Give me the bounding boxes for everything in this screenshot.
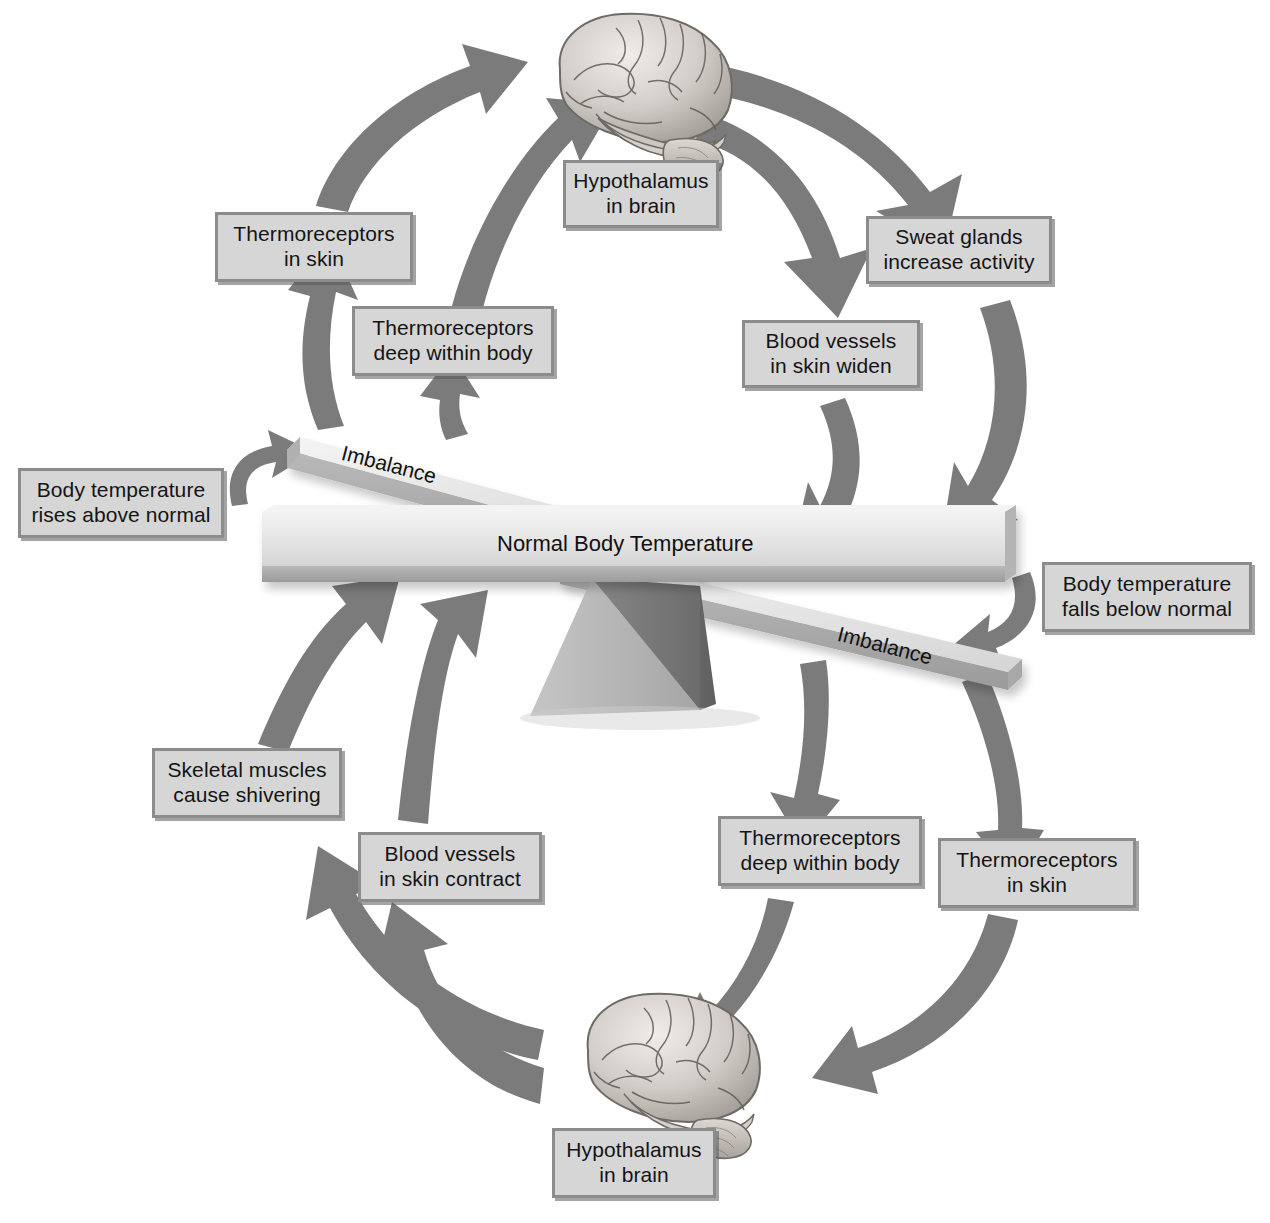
node-sweat-glands[interactable]: Sweat glands increase activity <box>866 216 1052 284</box>
node-blood-vessels-contract-line2: in skin contract <box>379 867 521 892</box>
thermoregulation-diagram: Normal Body Temperature Imbalance Imbala… <box>0 0 1270 1223</box>
node-blood-vessels-widen-line2: in skin widen <box>766 354 897 379</box>
node-skeletal-muscles-line1: Skeletal muscles <box>167 758 326 783</box>
node-skeletal-muscles-line2: cause shivering <box>167 783 326 808</box>
node-body-temperature-falls-line1: Body temperature <box>1062 572 1232 597</box>
node-thermoreceptors-deep-bottom[interactable]: Thermoreceptors deep within body <box>718 816 922 886</box>
arrow-blood-vessels-contract-to-beam <box>398 590 488 824</box>
arrow-thermoreceptors-skin-to-brain <box>316 44 528 212</box>
node-thermoreceptors-deep-bottom-line2: deep within body <box>739 851 900 876</box>
node-thermoreceptors-skin-top-line2: in skin <box>233 247 394 272</box>
node-sweat-glands-line1: Sweat glands <box>883 225 1034 250</box>
node-hypothalamus-top-line2: in brain <box>573 194 708 219</box>
node-body-temperature-rises-line2: rises above normal <box>31 503 210 528</box>
node-thermoreceptors-deep-top[interactable]: Thermoreceptors deep within body <box>352 306 554 376</box>
node-hypothalamus-bottom-line1: Hypothalamus <box>566 1138 701 1163</box>
node-sweat-glands-line2: increase activity <box>883 250 1034 275</box>
node-hypothalamus-bottom[interactable]: Hypothalamus in brain <box>552 1128 716 1198</box>
node-body-temperature-falls-line2: falls below normal <box>1062 597 1232 622</box>
node-hypothalamus-top-line1: Hypothalamus <box>573 169 708 194</box>
node-thermoreceptors-deep-top-line1: Thermoreceptors <box>372 316 533 341</box>
node-hypothalamus-top[interactable]: Hypothalamus in brain <box>563 160 719 228</box>
node-skeletal-muscles[interactable]: Skeletal muscles cause shivering <box>152 748 342 818</box>
node-hypothalamus-bottom-line2: in brain <box>566 1163 701 1188</box>
node-blood-vessels-widen-line1: Blood vessels <box>766 329 897 354</box>
node-blood-vessels-contract-line1: Blood vessels <box>379 842 521 867</box>
node-thermoreceptors-skin-bottom-line2: in skin <box>956 873 1117 898</box>
node-thermoreceptors-skin-top[interactable]: Thermoreceptors in skin <box>215 212 413 282</box>
arrow-sweat-glands-to-beam <box>942 300 1027 536</box>
arrow-thermoreceptors-skin-bottom-to-brain <box>812 914 1018 1094</box>
node-thermoreceptors-skin-bottom[interactable]: Thermoreceptors in skin <box>938 838 1136 908</box>
arrow-skeletal-muscles-to-beam <box>258 576 400 752</box>
node-thermoreceptors-skin-top-line1: Thermoreceptors <box>233 222 394 247</box>
balance-main-beam <box>262 505 1016 582</box>
node-body-temperature-falls[interactable]: Body temperature falls below normal <box>1042 562 1252 632</box>
node-body-temperature-rises[interactable]: Body temperature rises above normal <box>18 468 224 538</box>
node-blood-vessels-contract[interactable]: Blood vessels in skin contract <box>358 832 542 902</box>
node-thermoreceptors-deep-top-line2: deep within body <box>372 341 533 366</box>
node-blood-vessels-widen[interactable]: Blood vessels in skin widen <box>742 320 920 388</box>
node-thermoreceptors-skin-bottom-line1: Thermoreceptors <box>956 848 1117 873</box>
node-thermoreceptors-deep-bottom-line1: Thermoreceptors <box>739 826 900 851</box>
node-body-temperature-rises-line1: Body temperature <box>31 478 210 503</box>
